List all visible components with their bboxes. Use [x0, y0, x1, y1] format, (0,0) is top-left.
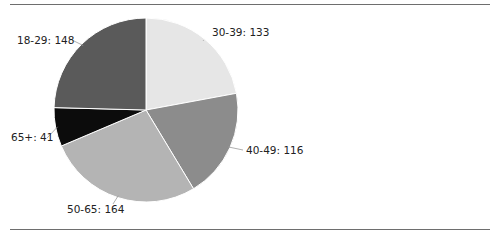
leader-line: [203, 40, 204, 41]
slice-label: 30-39: 133: [212, 26, 269, 38]
slice-label: 65+: 41: [11, 131, 53, 143]
slice-label: 50-65: 164: [67, 203, 125, 215]
bottom-divider: [10, 229, 490, 230]
pie-slice-18-29: [54, 18, 146, 110]
slice-label: 40-49: 116: [246, 144, 304, 156]
slice-label: 18-29: 148: [17, 34, 74, 46]
leader-line: [228, 147, 243, 150]
pie-chart: 30-39: 13340-49: 11650-65: 16465+: 4118-…: [0, 0, 498, 235]
